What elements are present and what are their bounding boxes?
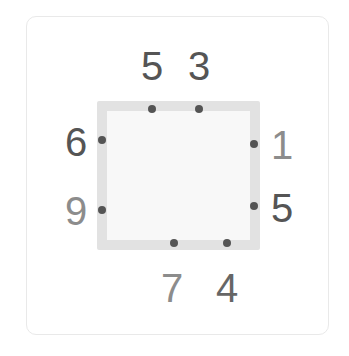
- number-label-bottom-0: 7: [161, 268, 183, 308]
- number-label-top-0: 5: [141, 46, 163, 86]
- number-label-right-1: 5: [271, 188, 293, 228]
- marker-dot-left-0[interactable]: [98, 136, 106, 144]
- marker-dot-top-0[interactable]: [148, 105, 156, 113]
- marker-dot-right-0[interactable]: [250, 140, 258, 148]
- number-label-left-0: 6: [65, 122, 87, 162]
- marker-dot-bottom-1[interactable]: [223, 239, 231, 247]
- marker-dot-bottom-0[interactable]: [170, 239, 178, 247]
- number-label-top-1: 3: [188, 46, 210, 86]
- number-label-left-1: 9: [65, 191, 87, 231]
- marker-dot-left-1[interactable]: [98, 206, 106, 214]
- marker-dot-top-1[interactable]: [195, 105, 203, 113]
- marker-dot-right-1[interactable]: [250, 202, 258, 210]
- center-square: [97, 101, 260, 250]
- number-label-right-0: 1: [271, 125, 293, 165]
- number-label-bottom-1: 4: [216, 268, 238, 308]
